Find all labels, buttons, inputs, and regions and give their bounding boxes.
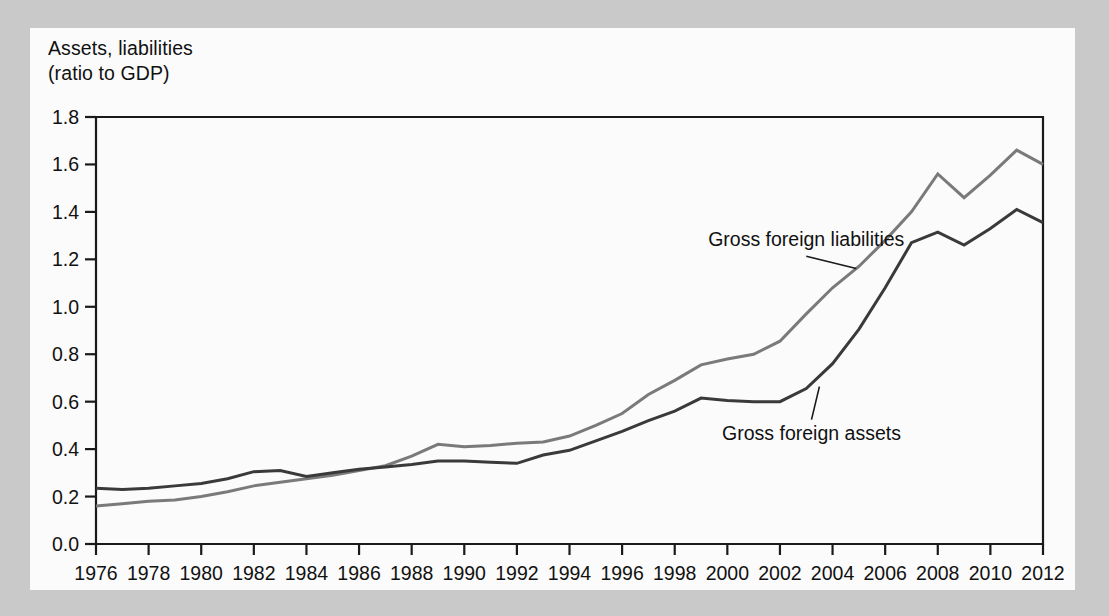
figure-card: Assets, liabilities (ratio to GDP) 0.00.… (30, 28, 1075, 590)
x-tick-label-1988: 1988 (390, 562, 433, 584)
x-tick-label-1984: 1984 (285, 562, 329, 584)
x-tick-label-1978: 1978 (127, 562, 170, 584)
x-tick-label-2012: 2012 (1021, 562, 1064, 584)
y-tick-label-1.4: 1.4 (52, 201, 79, 223)
x-tick-label-2000: 2000 (706, 562, 750, 584)
x-tick-label-2002: 2002 (758, 562, 801, 584)
y-tick-label-1.6: 1.6 (52, 153, 79, 175)
x-tick-label-1996: 1996 (600, 562, 643, 584)
annotation-label-gross-foreign-liabilities: Gross foreign liabilities (708, 228, 904, 250)
y-tick-label-1.0: 1.0 (52, 296, 79, 318)
annotation-label-gross-foreign-assets: Gross foreign assets (722, 422, 901, 444)
x-tick-label-1980: 1980 (180, 562, 224, 584)
x-tick-label-1976: 1976 (74, 562, 117, 584)
y-tick-label-1.2: 1.2 (52, 248, 79, 270)
series-line-gross-foreign-liabilities (96, 150, 1043, 506)
x-tick-label-1986: 1986 (337, 562, 380, 584)
x-tick-label-1992: 1992 (495, 562, 538, 584)
x-tick-label-2008: 2008 (916, 562, 959, 584)
x-tick-label-1998: 1998 (653, 562, 696, 584)
plot-frame (96, 117, 1043, 544)
y-tick-label-0.0: 0.0 (52, 533, 79, 555)
y-tick-label-1.8: 1.8 (52, 106, 79, 128)
x-tick-label-1982: 1982 (232, 562, 275, 584)
x-tick-label-1990: 1990 (443, 562, 487, 584)
x-tick-label-2004: 2004 (811, 562, 855, 584)
series-line-gross-foreign-assets (96, 210, 1043, 490)
y-tick-label-0.2: 0.2 (52, 486, 79, 508)
y-tick-label-0.4: 0.4 (52, 438, 79, 460)
annotation-leader-gross-foreign-liabilities (806, 256, 856, 268)
chart-root: Assets, liabilities (ratio to GDP) 0.00.… (30, 28, 1075, 590)
x-tick-label-1994: 1994 (548, 562, 592, 584)
line-chart-plot: 0.00.20.40.60.81.01.21.41.61.81976197819… (30, 28, 1075, 590)
annotation-leader-gross-foreign-assets (812, 387, 820, 420)
x-tick-label-2006: 2006 (863, 562, 906, 584)
y-tick-label-0.8: 0.8 (52, 343, 79, 365)
y-tick-label-0.6: 0.6 (52, 391, 79, 413)
x-tick-label-2010: 2010 (969, 562, 1013, 584)
